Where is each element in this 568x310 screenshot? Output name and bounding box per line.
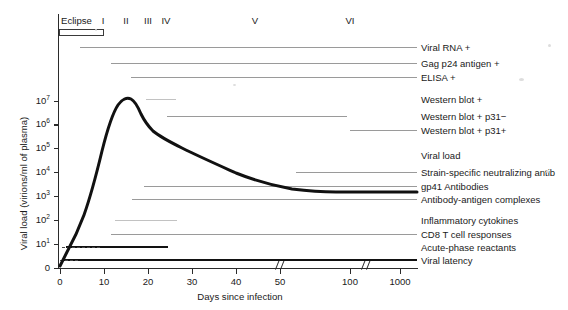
row-western-blot-p31-neg-marker-line — [167, 116, 347, 117]
scan-speck — [548, 44, 551, 47]
row-acute-phase-reactants: Acute-phase reactants — [421, 242, 516, 253]
row-inflammatory-cytokines-marker-line — [115, 220, 177, 221]
phase-5: V — [235, 15, 275, 26]
y-axis-tick-label: 105 — [20, 143, 50, 153]
scan-speck — [519, 78, 524, 81]
chart-figure: Viral load (virions/ml of plasma) Days s… — [0, 0, 568, 310]
x-axis-tick — [236, 269, 237, 274]
row-western-blot-p31-pos-marker-line — [350, 130, 417, 131]
x-axis-tick-label: 30 — [172, 276, 212, 287]
scan-speck — [546, 170, 549, 173]
marker-dashed-leader — [62, 247, 100, 248]
x-axis-title: Days since infection — [150, 291, 330, 302]
x-axis-tick — [104, 269, 105, 274]
y-axis-tick-label: 0 — [20, 263, 50, 273]
y-axis-tick-label: 106 — [20, 119, 50, 129]
row-western-blot: Western blot + — [421, 94, 482, 105]
x-axis-tick — [400, 269, 401, 274]
y-axis-tick — [54, 268, 58, 269]
row-gag-p24-antigen-marker-line — [111, 63, 417, 64]
x-axis-tick-label: 40 — [216, 276, 256, 287]
row-antibody-antigen-complexes: Antibody-antigen complexes — [421, 194, 540, 205]
y-axis-tick-label: 103 — [20, 191, 50, 201]
row-strain-specific-neutralizing-antibodies-marker-line — [296, 172, 417, 173]
x-axis-tick-label: 100 — [330, 276, 370, 287]
row-cd8-t-cell-responses: CD8 T cell responses — [421, 229, 511, 240]
y-axis-tick — [54, 220, 58, 221]
x-axis-tick — [192, 269, 193, 274]
row-western-blot-p31-neg: Western blot + p31− — [421, 111, 506, 122]
row-viral-rna-marker-line — [80, 47, 417, 48]
y-axis-tick — [54, 172, 58, 173]
row-western-blot-p31-pos: Western blot + p31+ — [421, 125, 506, 136]
row-viral-rna: Viral RNA + — [421, 42, 470, 53]
x-axis-tick-label: 1000 — [380, 276, 420, 287]
marker-dashed-leader — [60, 260, 78, 261]
y-axis-tick-label: 102 — [20, 215, 50, 225]
scan-speck — [233, 84, 236, 86]
row-strain-specific-neutralizing-antibodies: Strain-specific neutralizing antib — [421, 167, 555, 178]
row-viral-latency: Viral latency — [421, 255, 473, 266]
x-axis-tick-label: 50 — [260, 276, 300, 287]
row-elisa: ELISA + — [421, 72, 456, 83]
row-gag-p24-antigen: Gag p24 antigen + — [421, 58, 499, 69]
phase-4: IV — [146, 15, 186, 26]
row-cd8-t-cell-responses-marker-line — [111, 234, 417, 235]
y-axis-tick — [54, 244, 58, 245]
y-axis-tick — [54, 124, 58, 125]
y-axis-line — [58, 14, 59, 268]
row-gp41-antibodies-marker-line — [144, 186, 417, 187]
x-axis-tick — [148, 269, 149, 274]
y-axis-tick-label: 101 — [20, 239, 50, 249]
y-axis-tick — [54, 148, 58, 149]
row-western-blot-marker-line — [146, 99, 176, 100]
x-axis-tick — [60, 269, 61, 274]
row-viral-load: Viral load — [421, 150, 460, 161]
eclipse-period-bar — [59, 29, 104, 36]
row-elisa-marker-line — [131, 77, 417, 78]
y-axis-tick — [54, 196, 58, 197]
x-axis-tick-label: 10 — [84, 276, 124, 287]
phase-6: VI — [330, 15, 370, 26]
row-antibody-antigen-complexes-marker-line — [132, 199, 417, 200]
row-inflammatory-cytokines: Inflammatory cytokines — [421, 215, 518, 226]
y-axis-tick-label: 104 — [20, 167, 50, 177]
y-axis-tick — [54, 101, 58, 102]
y-axis-tick-label: 107 — [20, 96, 50, 106]
x-axis-tick-label: 20 — [128, 276, 168, 287]
row-gp41-antibodies: gp41 Antibodies — [421, 181, 489, 192]
scan-speck — [95, 29, 97, 31]
row-viral-latency-marker-line — [62, 259, 417, 261]
x-axis-tick-label: 0 — [40, 276, 80, 287]
x-axis-tick — [350, 269, 351, 274]
